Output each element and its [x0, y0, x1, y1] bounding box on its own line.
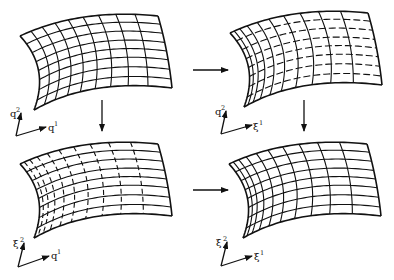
- axis-label-horizontal-sup: 1: [260, 249, 264, 257]
- grid-line-vertical: [131, 142, 144, 213]
- grid-line-vertical: [42, 27, 59, 100]
- grid-patch-top-left: [20, 14, 172, 110]
- grid-line-vertical: [116, 14, 129, 85]
- grid-line-vertical: [31, 31, 49, 104]
- axis-label-horizontal-sup: 1: [54, 120, 58, 128]
- grid-line-vertical: [318, 12, 331, 83]
- axes-top-right: q 2 ξ 1: [215, 104, 263, 134]
- grid-line-horizontal: [37, 204, 171, 228]
- axis-arrow-vertical: [221, 242, 227, 266]
- grid-line-vertical: [340, 142, 353, 213]
- axis-arrow-horizontal: [18, 256, 49, 267]
- grid-line-vertical: [20, 164, 40, 238]
- grid-line-vertical: [246, 157, 264, 230]
- axes-top-left: q 2 q 1: [10, 106, 58, 136]
- axis-label-horizontal-sup: 1: [57, 248, 61, 256]
- grid-line-horizontal: [34, 86, 172, 110]
- axis-arrow-horizontal: [221, 256, 252, 266]
- axis-label-vertical-sup: 2: [223, 235, 227, 243]
- grid-line-horizontal: [243, 214, 381, 238]
- grid-line-vertical: [37, 157, 55, 230]
- axes-bottom-right: ξ 2 ξ 1: [216, 235, 264, 266]
- grid-line-vertical: [341, 11, 354, 82]
- grid-patch-bottom-right: [229, 142, 381, 238]
- grid-line-horizontal: [246, 204, 380, 228]
- grid-patch-bottom-left: [20, 142, 172, 238]
- grid-line-horizontal: [37, 76, 171, 100]
- grid-line-vertical: [317, 143, 330, 214]
- axis-label-vertical-sup: 2: [221, 104, 225, 112]
- axis-arrow-horizontal: [221, 125, 252, 134]
- grid-line-vertical: [47, 153, 64, 226]
- grid-line-horizontal: [247, 73, 381, 97]
- axis-label-horizontal-sup: 1: [259, 119, 263, 127]
- axis-arrow-vertical: [221, 111, 226, 134]
- grid-line-vertical: [256, 153, 273, 226]
- grid-line-vertical: [257, 22, 274, 95]
- axis-label-vertical-sup: 2: [16, 106, 20, 114]
- grid-line-vertical: [108, 143, 121, 214]
- axes-bottom-left: ξ 2 q 1: [13, 236, 61, 267]
- grid-patch-top-right: [230, 11, 382, 107]
- axis-arrow-vertical: [18, 243, 24, 267]
- grid-line-vertical: [135, 14, 148, 86]
- grid-line-horizontal: [34, 214, 172, 238]
- grid-line-vertical: [229, 164, 249, 238]
- diagram-canvas: q 2 q 1 q 2 ξ 1 ξ 2 q 1 ξ 2 ξ 1: [0, 0, 394, 280]
- axis-arrow-horizontal: [16, 127, 46, 136]
- axis-arrow-vertical: [16, 113, 21, 136]
- grid-line-vertical: [20, 36, 40, 110]
- axis-label-vertical: ξ: [216, 237, 222, 248]
- grid-line-vertical: [247, 26, 265, 99]
- axis-label-vertical: ξ: [13, 238, 19, 249]
- grid-line-vertical: [230, 33, 250, 107]
- axis-label-vertical-sup: 2: [20, 236, 24, 244]
- grid-line-horizontal: [244, 83, 382, 107]
